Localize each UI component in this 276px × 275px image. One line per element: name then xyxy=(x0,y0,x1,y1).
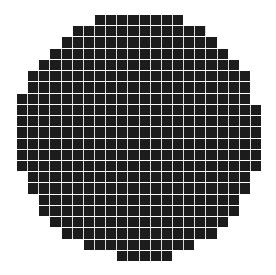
tile xyxy=(151,172,161,182)
tile xyxy=(184,161,194,171)
tile xyxy=(140,116,150,126)
tile xyxy=(39,183,49,194)
tile xyxy=(73,60,83,70)
tile xyxy=(229,60,239,70)
tile xyxy=(50,94,61,104)
tile xyxy=(151,26,161,36)
tile xyxy=(39,94,49,104)
tile xyxy=(162,94,172,104)
tile xyxy=(218,161,228,171)
tile xyxy=(206,195,217,205)
tile xyxy=(62,37,72,48)
tile xyxy=(140,240,150,250)
tile xyxy=(95,127,105,138)
tile xyxy=(117,116,127,126)
tile xyxy=(17,94,27,104)
tile xyxy=(240,82,250,93)
tile xyxy=(229,139,239,149)
tile xyxy=(173,161,183,171)
tile xyxy=(106,60,116,70)
tile xyxy=(184,206,194,216)
tile xyxy=(140,251,150,261)
tile xyxy=(95,161,105,171)
tile xyxy=(106,94,116,104)
tile xyxy=(140,161,150,171)
tile xyxy=(84,139,94,149)
tile xyxy=(151,60,161,70)
tile xyxy=(95,116,105,126)
tile xyxy=(117,139,127,149)
tile xyxy=(28,105,38,115)
tile xyxy=(62,127,72,138)
tile xyxy=(28,82,38,93)
tile xyxy=(128,26,139,36)
tile xyxy=(28,127,38,138)
tile xyxy=(84,82,94,93)
tile xyxy=(240,94,250,104)
tile xyxy=(84,183,94,194)
tile xyxy=(39,195,49,205)
tile xyxy=(62,116,72,126)
tile xyxy=(17,139,27,149)
tile xyxy=(117,172,127,182)
tile xyxy=(73,49,83,59)
tile xyxy=(184,60,194,70)
tile xyxy=(162,105,172,115)
tile xyxy=(162,251,172,261)
tile xyxy=(162,60,172,70)
tile xyxy=(73,195,83,205)
tile xyxy=(95,240,105,250)
tile xyxy=(95,139,105,149)
tile xyxy=(251,105,261,115)
tile xyxy=(62,206,72,216)
tile xyxy=(50,49,61,59)
tile xyxy=(184,94,194,104)
tile xyxy=(28,161,38,171)
tile xyxy=(106,150,116,160)
tile xyxy=(73,150,83,160)
tile xyxy=(62,195,72,205)
tile xyxy=(184,37,194,48)
tile xyxy=(95,206,105,216)
tile xyxy=(39,161,49,171)
tile xyxy=(240,183,250,194)
tile xyxy=(84,206,94,216)
tile xyxy=(117,240,127,250)
tile xyxy=(50,71,61,81)
tile xyxy=(128,206,139,216)
tile xyxy=(84,228,94,239)
tile xyxy=(28,139,38,149)
tile xyxy=(140,82,150,93)
mosaic-canvas xyxy=(0,0,276,275)
tile xyxy=(206,206,217,216)
tile xyxy=(73,183,83,194)
tile xyxy=(128,105,139,115)
tile xyxy=(240,105,250,115)
tile xyxy=(151,127,161,138)
tile xyxy=(17,127,27,138)
tile xyxy=(140,150,150,160)
tile xyxy=(151,105,161,115)
tile xyxy=(184,228,194,239)
tile xyxy=(128,195,139,205)
tile xyxy=(84,71,94,81)
tile xyxy=(50,105,61,115)
tile xyxy=(39,116,49,126)
tile xyxy=(50,161,61,171)
tile xyxy=(173,15,183,25)
tile xyxy=(140,37,150,48)
tile xyxy=(162,26,172,36)
tile xyxy=(206,71,217,81)
tile xyxy=(218,60,228,70)
tile xyxy=(151,195,161,205)
tile xyxy=(84,49,94,59)
tile xyxy=(251,161,261,171)
tile xyxy=(229,172,239,182)
tile xyxy=(240,127,250,138)
tile xyxy=(162,161,172,171)
tile xyxy=(73,116,83,126)
tile xyxy=(140,217,150,227)
tile xyxy=(128,94,139,104)
tile xyxy=(173,127,183,138)
tile xyxy=(106,183,116,194)
